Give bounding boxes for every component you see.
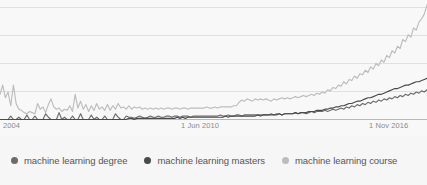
legend-color-dot-icon <box>144 157 151 164</box>
x-axis-tick-label-start: 2004 <box>3 121 20 131</box>
series-line-machine-learning-masters <box>0 78 427 119</box>
legend-item-machine-learning-masters[interactable]: machine learning masters <box>144 155 265 166</box>
legend-item-machine-learning-degree[interactable]: machine learning degree <box>11 155 127 166</box>
series-line-machine-learning-course <box>0 5 427 114</box>
legend-item-machine-learning-course[interactable]: machine learning course <box>282 155 397 166</box>
series-line-machine-learning-degree <box>0 90 427 120</box>
x-axis-tick-label-middle: 1 Jun 2010 <box>181 121 219 131</box>
google-trends-chart-widget: 2004 1 Jun 2010 1 Nov 2016 machine learn… <box>0 0 427 185</box>
chart-legend: machine learning degree machine learning… <box>0 136 427 185</box>
legend-color-dot-icon <box>282 157 289 164</box>
legend-item-label: machine learning degree <box>24 155 127 166</box>
trends-line-chart-svg <box>0 0 427 136</box>
legend-item-label: machine learning course <box>295 155 397 166</box>
gridlines-group <box>0 8 427 120</box>
legend-item-label: machine learning masters <box>157 155 265 166</box>
chart-plot-area[interactable]: 2004 1 Jun 2010 1 Nov 2016 <box>0 0 427 136</box>
legend-color-dot-icon <box>11 157 18 164</box>
series-lines-group <box>0 5 427 120</box>
x-axis-tick-label-end: 1 Nov 2016 <box>369 121 408 131</box>
